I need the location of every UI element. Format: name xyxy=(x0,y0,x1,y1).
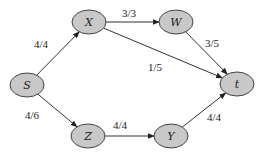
edges: 4/43/31/53/54/64/44/4 xyxy=(25,7,227,136)
edge-label: 1/5 xyxy=(148,61,163,73)
node-w: W xyxy=(159,10,193,34)
node-t: t xyxy=(220,72,254,96)
node-label: S xyxy=(23,79,31,92)
node-y: Y xyxy=(154,124,188,148)
node-label: X xyxy=(84,16,94,29)
edge-label: 4/4 xyxy=(34,38,49,50)
edge-label: 4/4 xyxy=(207,111,222,123)
edge-label: 3/5 xyxy=(205,37,220,49)
edge-x-t xyxy=(104,28,223,78)
nodes: SXWtZY xyxy=(10,10,254,148)
node-label: W xyxy=(170,16,183,29)
flow-network-diagram: 4/43/31/53/54/64/44/4 SXWtZY xyxy=(0,0,264,156)
edge-label: 3/3 xyxy=(122,7,137,19)
node-label: t xyxy=(235,78,240,91)
node-z: Z xyxy=(71,124,105,148)
edge-label: 4/6 xyxy=(25,109,40,121)
node-label: Z xyxy=(83,130,92,143)
edge-label: 4/4 xyxy=(113,119,128,131)
edge-s-z xyxy=(38,94,77,127)
node-x: X xyxy=(72,10,106,34)
node-s: S xyxy=(10,73,44,97)
